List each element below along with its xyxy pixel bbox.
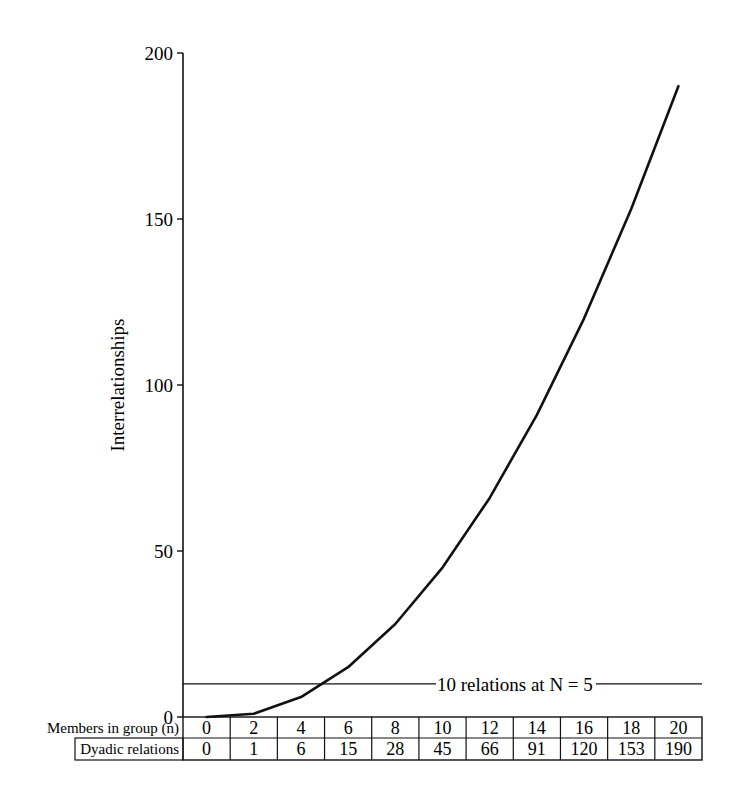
y-tick-label: 200 — [145, 43, 174, 64]
y-axis-title: Interrelationships — [107, 319, 128, 452]
table-cell: 20 — [669, 718, 687, 738]
table-cell: 15 — [339, 739, 357, 759]
table-cell: 120 — [571, 739, 598, 759]
data-series-line — [207, 86, 679, 717]
table-cell: 2 — [249, 718, 258, 738]
table-cell: 4 — [296, 718, 305, 738]
table-cell: 190 — [665, 739, 692, 759]
table-cell: 45 — [434, 739, 452, 759]
y-tick-label: 100 — [145, 375, 174, 396]
table-cell: 1 — [249, 739, 258, 759]
table-cell: 14 — [528, 718, 546, 738]
table-row-label: Dyadic relations — [80, 741, 179, 757]
table-cell: 0 — [202, 718, 211, 738]
y-tick-label: 50 — [154, 541, 173, 562]
chart: 050100150200 10 relations at N = 5 Membe… — [0, 0, 745, 808]
table-cell: 0 — [202, 739, 211, 759]
table-cell: 28 — [386, 739, 404, 759]
y-tick-label: 150 — [145, 209, 174, 230]
table-cell: 91 — [528, 739, 546, 759]
table-cell: 6 — [344, 718, 353, 738]
y-axis: 050100150200 — [145, 43, 184, 728]
reference-line-label: 10 relations at N = 5 — [437, 674, 593, 695]
table-cell: 66 — [481, 739, 499, 759]
table-cell: 10 — [434, 718, 452, 738]
table-cell: 6 — [296, 739, 305, 759]
table-cell: 8 — [391, 718, 400, 738]
table-cell: 16 — [575, 718, 593, 738]
x-axis-title: Members in group (n) — [47, 720, 179, 737]
table-cell: 18 — [622, 718, 640, 738]
table-cell: 153 — [618, 739, 645, 759]
reference-line: 10 relations at N = 5 — [183, 674, 702, 695]
data-table: Members in group (n)02468101214161820Dya… — [47, 717, 702, 760]
table-cell: 12 — [481, 718, 499, 738]
